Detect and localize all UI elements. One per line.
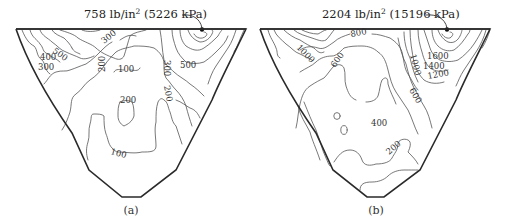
contour-label: 300: [99, 28, 118, 46]
contour-label: 300: [162, 60, 172, 76]
contour-label: 200: [384, 138, 403, 156]
contour-line: [188, 30, 213, 42]
contour-line: [302, 30, 326, 34]
contour-line: [87, 99, 183, 160]
contour-label: 100: [118, 64, 134, 74]
panel-b: 2204 lb/in2 (15196 kPa): [260, 7, 490, 217]
panel-a: 758 lb/in2 (5226 kPa): [16, 7, 246, 217]
contour-line: [296, 65, 356, 128]
contour-label: 200: [97, 56, 107, 72]
contour-line: [180, 30, 222, 50]
contour-figure: 758 lb/in2 (5226 kPa): [0, 0, 508, 224]
panel-a-peak-annotation: 758 lb/in2 (5226 kPa): [84, 7, 207, 21]
contour-line: [432, 30, 470, 51]
contour-line: [334, 113, 340, 120]
panel-b-peak-annotation: 2204 lb/in2 (15196 kPa): [322, 7, 460, 21]
contour-line: [442, 32, 453, 38]
contour-line: [82, 30, 100, 32]
contour-line: [194, 32, 207, 38]
contour-label: 200: [120, 95, 136, 105]
panel-a-contour-labels: 300 500 400 300 200 100 300 500 200 200 …: [38, 28, 196, 160]
contour-label: 400: [371, 118, 387, 128]
contour-line: [120, 35, 136, 40]
contour-label: 100: [109, 146, 127, 160]
panel-b-caption: (b): [368, 204, 384, 217]
contour-label: 1600: [427, 51, 449, 61]
contour-label: 500: [180, 60, 196, 70]
contour-line: [176, 100, 200, 118]
contour-line: [72, 48, 80, 54]
panel-a-caption: (a): [123, 204, 138, 217]
contour-label: 400: [40, 52, 56, 62]
contour-label: 1000: [408, 53, 423, 76]
panel-b-section-outline: [260, 29, 490, 197]
contour-line: [360, 170, 418, 190]
contour-line: [300, 46, 418, 134]
contour-line: [341, 126, 347, 135]
contour-line: [294, 30, 334, 41]
contour-label: 300: [38, 62, 54, 72]
contour-line: [334, 139, 418, 165]
